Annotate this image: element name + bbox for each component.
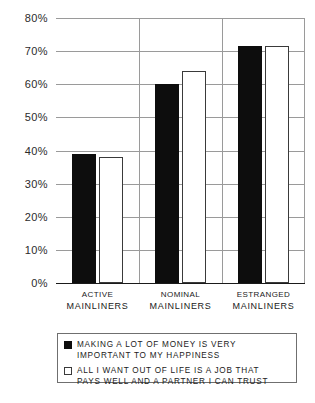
category-label-line1: Nominal [139, 287, 222, 300]
x-axis-category-labels: ActiveMainlinersNominalMainlinersEstrang… [56, 287, 305, 321]
category-separator [222, 18, 223, 283]
y-axis-tick-label: 60% [0, 78, 48, 90]
y-axis-tick-label: 20% [0, 211, 48, 223]
bar-white [182, 71, 206, 283]
plot-area [56, 18, 305, 283]
category-label-line2: Mainliners [56, 300, 139, 313]
y-axis-tick-label: 50% [0, 111, 48, 123]
y-axis-tick-label: 30% [0, 178, 48, 190]
legend-swatch-black [64, 341, 72, 349]
chart-legend: Making a lot of money is very important … [57, 333, 297, 383]
category-label-line1: Estranged [222, 287, 305, 300]
y-axis-tick-label: 0% [0, 277, 48, 289]
x-axis-category-2: NominalMainliners [139, 287, 222, 313]
y-axis-tick-label: 80% [0, 12, 48, 24]
gridline [56, 18, 305, 19]
legend-swatch-white [64, 367, 72, 375]
bar-black [238, 46, 262, 283]
y-axis-tick-label: 10% [0, 244, 48, 256]
legend-entry: All I want out of life is a job that pay… [64, 365, 290, 387]
category-label-line2: Mainliners [222, 300, 305, 313]
legend-label: All I want out of life is a job that pay… [77, 365, 268, 387]
legend-label: Making a lot of money is very important … [77, 339, 236, 361]
bar-black [72, 154, 96, 283]
y-axis-tick-label: 70% [0, 45, 48, 57]
category-separator [139, 18, 140, 283]
bar-black [155, 84, 179, 283]
category-label-line2: Mainliners [139, 300, 222, 313]
bar-white [99, 157, 123, 283]
bar-chart: 80%70%60%50%40%30%20%10%0% ActiveMainlin… [0, 0, 315, 300]
category-separator [304, 18, 305, 283]
x-axis-category-3: EstrangedMainliners [222, 287, 305, 313]
x-axis-category-1: ActiveMainliners [56, 287, 139, 313]
axis-baseline [56, 283, 305, 284]
legend-entry: Making a lot of money is very important … [64, 339, 290, 361]
y-axis-tick-label: 40% [0, 145, 48, 157]
category-label-line1: Active [56, 287, 139, 300]
bar-white [265, 46, 289, 283]
